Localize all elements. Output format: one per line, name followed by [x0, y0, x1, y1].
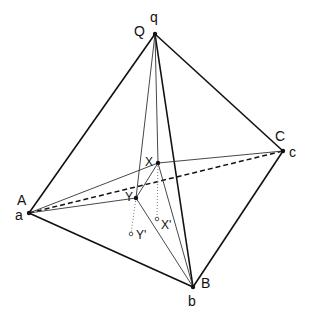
label-Y: Y: [125, 190, 133, 204]
edge-a-c-dashed: [29, 151, 283, 213]
edge-a-X: [29, 163, 158, 213]
point-Y: [134, 196, 138, 200]
label-b: b: [188, 293, 196, 309]
edge-b-c: [193, 151, 283, 287]
point-Y-prime: [129, 232, 133, 236]
label-Q: Q: [134, 23, 145, 39]
label-q: q: [150, 9, 158, 25]
label-a: a: [15, 207, 23, 223]
edge-q-Y: [136, 34, 155, 198]
vertex-c: [281, 149, 285, 153]
edge-q-a: [29, 34, 155, 213]
thin-edges: [29, 34, 283, 287]
label-X-prime: X': [161, 218, 171, 232]
label-A: A: [17, 192, 27, 208]
edge-a-Y: [29, 198, 136, 213]
tetrahedron-diagram: Q q A a B b C c X Y X' Y': [0, 0, 309, 315]
label-Y-prime: Y': [136, 228, 146, 242]
label-c: c: [289, 144, 296, 160]
vertex-a: [27, 211, 31, 215]
label-X: X: [145, 155, 153, 169]
projection-X: [157, 163, 158, 219]
point-X-prime: [155, 217, 159, 221]
label-B: B: [201, 275, 210, 291]
edge-X-c: [158, 151, 283, 163]
diagram-canvas: Q q A a B b C c X Y X' Y': [0, 0, 309, 315]
point-X: [156, 161, 160, 165]
edge-q-c: [155, 34, 283, 151]
vertex-b: [191, 285, 195, 289]
label-C: C: [275, 128, 285, 144]
vertex-q: [153, 32, 157, 36]
